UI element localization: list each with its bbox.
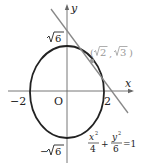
tangent-point	[90, 59, 94, 63]
svg-text:6: 6	[55, 33, 61, 44]
y-tick-sqrt6: 6	[47, 32, 64, 44]
svg-text:(: (	[90, 47, 94, 58]
svg-text:3: 3	[120, 47, 126, 58]
x-tick-neg2: −2	[10, 95, 26, 108]
svg-text:−: −	[40, 146, 48, 157]
ellipse-diagram: y x O −2 2 6 − 6 ( 2 , 3 ) x 2 4 + y 2 6…	[0, 0, 145, 167]
origin-label: O	[54, 95, 63, 108]
x-tick-2: 2	[104, 95, 111, 108]
svg-text:6: 6	[113, 144, 119, 154]
svg-text:,: ,	[109, 48, 112, 59]
svg-text:2: 2	[95, 130, 98, 136]
y-tick-neg-sqrt6: − 6	[40, 145, 64, 157]
svg-text:+: +	[101, 139, 109, 149]
svg-text:): )	[129, 47, 133, 58]
y-axis-arrow-icon	[65, 4, 69, 10]
svg-text:2: 2	[100, 47, 106, 58]
y-axis-label: y	[70, 2, 78, 15]
svg-text:4: 4	[90, 144, 96, 154]
x-axis-label: x	[125, 77, 132, 90]
svg-text:6: 6	[55, 146, 61, 157]
svg-text:2: 2	[118, 130, 121, 136]
svg-text:y: y	[111, 132, 118, 142]
ellipse-equation: x 2 4 + y 2 6 =1	[88, 130, 136, 154]
svg-text:=1: =1	[123, 139, 136, 149]
tangent-point-label: ( 2 , 3 )	[90, 47, 133, 60]
svg-text:x: x	[89, 132, 94, 142]
